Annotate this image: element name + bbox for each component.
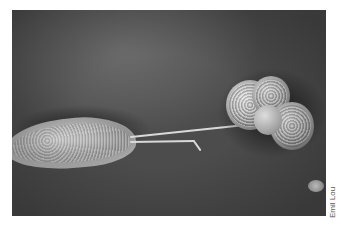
micrograph-image <box>12 10 326 216</box>
vignette-overlay <box>12 10 326 216</box>
photo-credit: Emil Lou <box>328 187 337 218</box>
